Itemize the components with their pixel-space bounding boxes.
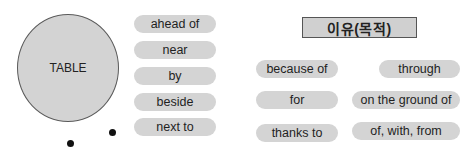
pill-for: for — [256, 91, 338, 109]
table-circle: TABLE — [17, 14, 119, 122]
pill-next-to: next to — [134, 118, 216, 136]
pill-ahead-of: ahead of — [134, 15, 216, 33]
pill-because-of: because of — [256, 60, 338, 78]
pill-through: through — [379, 60, 460, 78]
pill-near: near — [134, 41, 216, 59]
pill-beside: beside — [134, 93, 216, 111]
bullet-dot-2 — [109, 129, 116, 136]
pill-by: by — [134, 67, 216, 85]
reason-title: 이유(목적) — [302, 17, 417, 38]
pill-of-with-from: of, with, from — [352, 122, 460, 140]
bullet-dot-1 — [67, 140, 74, 147]
pill-on-the-ground-of: on the ground of — [352, 91, 460, 109]
pill-thanks-to: thanks to — [256, 124, 338, 142]
table-circle-label: TABLE — [49, 61, 86, 75]
